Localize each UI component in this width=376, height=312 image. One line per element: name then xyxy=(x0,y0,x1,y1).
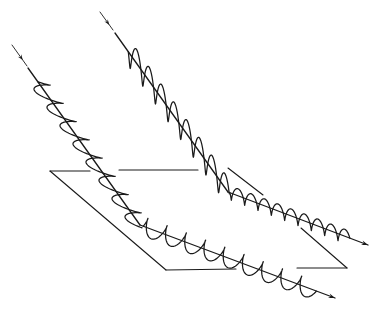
plane-edge xyxy=(50,171,166,270)
diagram-canvas xyxy=(0,0,376,312)
reflected-ray xyxy=(228,192,368,245)
incident-arrow-icon xyxy=(18,54,23,60)
beam-vertical-polarization xyxy=(100,12,368,245)
incident-lead-line xyxy=(12,45,27,66)
reflected-wave xyxy=(143,218,316,297)
plane-edge xyxy=(166,269,236,270)
reflecting-plane xyxy=(50,168,347,270)
reflected-wave xyxy=(230,189,350,241)
polarization-reflection-diagram xyxy=(0,0,376,312)
plane-edge xyxy=(228,168,263,195)
incident-arrow-icon xyxy=(104,19,109,25)
incident-ray xyxy=(28,68,140,225)
incident-lead-line xyxy=(100,12,113,30)
light-beams xyxy=(12,12,368,298)
reflected-ray xyxy=(140,225,335,298)
